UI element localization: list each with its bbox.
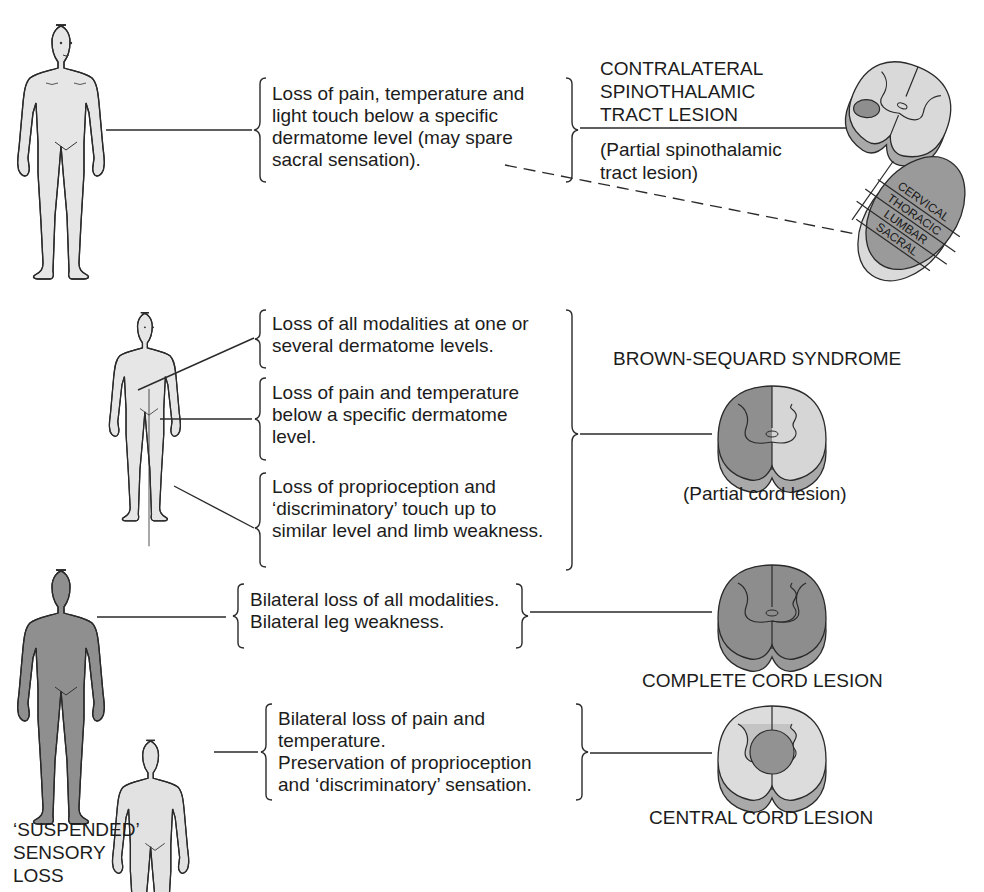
figure-brown-sequard xyxy=(109,313,186,570)
title-spinothalamic: CONTRALATERAL SPINOTHALAMIC TRACT LESION xyxy=(600,57,763,126)
figure-complete xyxy=(16,570,116,824)
cord-brown-sequard xyxy=(712,372,832,492)
description-central: Bilateral loss of pain and temperature. … xyxy=(278,708,532,796)
description-complete: Bilateral loss of all modalities. Bilate… xyxy=(250,589,499,633)
title-brown-sequard: BROWN-SEQUARD SYNDROME xyxy=(613,347,901,370)
cord-spinothalamic xyxy=(835,48,965,177)
description-brown-sequard-3: Loss of proprioception and ‘discriminato… xyxy=(272,476,543,542)
description-brown-sequard-2: Loss of pain and temperature below a spe… xyxy=(272,382,519,448)
title-central: CENTRAL CORD LESION xyxy=(649,806,873,829)
subtitle-spinothalamic: (Partial spinothalamic tract lesion) xyxy=(600,138,782,184)
title-complete: COMPLETE CORD LESION xyxy=(642,669,883,692)
figure-spinothalamic xyxy=(18,25,106,298)
label-suspended-sensory-loss: ‘SUSPENDED’ SENSORY LOSS xyxy=(13,818,140,887)
subtitle-brown-sequard: (Partial cord lesion) xyxy=(683,482,847,505)
description-brown-sequard-1: Loss of all modalities at one or several… xyxy=(272,313,529,357)
cord-central xyxy=(718,706,826,812)
cord-complete xyxy=(718,565,826,671)
description-spinothalamic: Loss of pain, temperature and light touc… xyxy=(272,83,524,171)
